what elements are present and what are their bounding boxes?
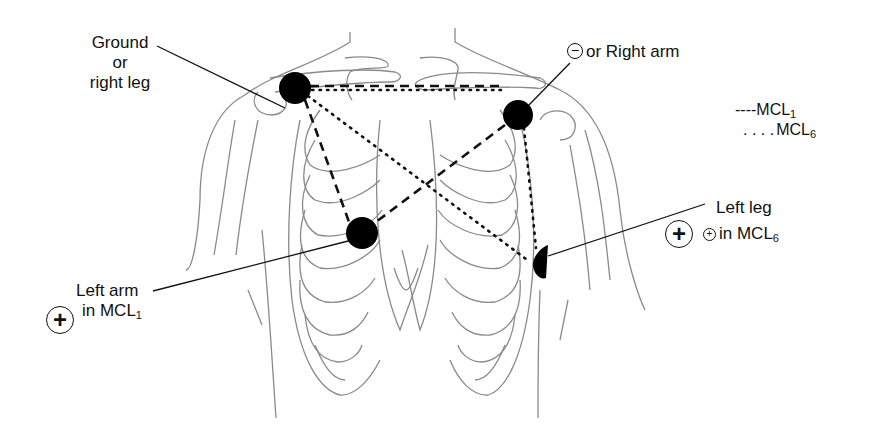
right-arm-label: −or Right arm: [567, 42, 680, 62]
electrode-right-arm: [503, 100, 533, 130]
positive-symbol-icon-left-leg: +: [665, 220, 693, 248]
dotted-line-icon: . . . .: [743, 121, 774, 138]
left-arm-polarity: +: [53, 308, 67, 332]
legend-mcl1-label: MCL: [756, 101, 790, 118]
legend-item-mcl6: . . . .MCL6: [735, 120, 816, 140]
positive-symbol-icon-left-arm: +: [46, 306, 74, 334]
mcl1-lead-lines: [305, 86, 505, 222]
left-leg-polarity: +: [672, 222, 686, 246]
left-leg-mcl-text: in MCL: [719, 224, 773, 243]
left-arm-label: Left arm in MCL1: [76, 281, 142, 321]
left-leg-label-line1: Left leg: [716, 198, 772, 218]
electrode-ground: [279, 72, 311, 104]
small-positive-symbol-icon: +: [703, 228, 716, 241]
left-arm-mcl-sub: 1: [136, 309, 142, 321]
ground-label-line2: or: [72, 53, 168, 73]
dashed-line-icon: ----: [735, 101, 756, 118]
right-arm-label-text: or Right arm: [586, 42, 680, 61]
legend-mcl6-label: MCL: [776, 121, 810, 138]
ground-label-line1: Ground: [72, 33, 168, 53]
ground-label-line3: right leg: [72, 73, 168, 93]
left-arm-label-line1: Left arm: [76, 281, 142, 301]
electrode-left-leg: [533, 245, 548, 278]
left-leg-label-line2: +in MCL6: [703, 224, 779, 244]
legend-item-mcl1: ----MCL1: [735, 100, 816, 120]
negative-symbol-icon: −: [567, 43, 583, 59]
left-arm-mcl-text: in MCL: [82, 301, 136, 320]
legend-mcl6-sub: 6: [810, 128, 816, 140]
ground-label: Ground or right leg: [72, 33, 168, 93]
mcl6-lead-lines: [308, 90, 536, 262]
left-leg-mcl-sub: 6: [773, 232, 779, 244]
left-arm-label-line2: in MCL1: [76, 301, 142, 321]
electrode-left-arm: [346, 217, 378, 249]
legend-mcl1-sub: 1: [790, 108, 796, 120]
legend: ----MCL1 . . . .MCL6: [735, 100, 816, 140]
left-leg-label: Left leg: [716, 198, 772, 218]
